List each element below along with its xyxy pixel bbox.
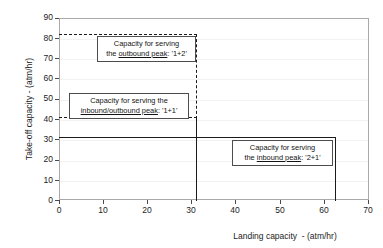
gridline-60 — [60, 79, 368, 80]
annotation-inbound-peak-line2: the inbound peak: '2+1' — [236, 153, 329, 163]
x-tick-mark-70 — [368, 200, 369, 204]
x-tick-mark-10 — [103, 200, 104, 204]
y-tick-label-0: 0 — [27, 196, 53, 205]
gridline-40 — [60, 120, 368, 121]
x-tick-mark-20 — [147, 200, 148, 204]
curve-landing-31-boundary-vertical — [196, 117, 197, 201]
y-tick-label-50: 50 — [27, 94, 53, 103]
x-tick-label-20: 20 — [132, 205, 162, 215]
x-tick-mark-50 — [280, 200, 281, 204]
curve-inbound-peak-vertical — [335, 137, 336, 201]
y-tick-label-70: 70 — [27, 54, 53, 63]
curve-outbound-peak-vertical — [196, 34, 197, 119]
y-tick-label-80: 80 — [27, 34, 53, 43]
x-tick-label-0: 0 — [44, 205, 74, 215]
x-tick-label-70: 70 — [353, 205, 383, 215]
annotation-outbound-peak-line1: Capacity for serving — [101, 39, 192, 49]
x-tick-label-30: 30 — [176, 205, 206, 215]
x-tick-mark-30 — [191, 200, 192, 204]
y-tick-label-40: 40 — [27, 115, 53, 124]
annotation-inbound-peak-line1: Capacity for serving — [236, 143, 329, 153]
y-tick-label-10: 10 — [27, 176, 53, 185]
x-tick-mark-40 — [235, 200, 236, 204]
x-tick-label-40: 40 — [220, 205, 250, 215]
x-axis-title: Landing capacity - (atm/hr) — [190, 231, 380, 241]
x-axis-tick-labels: 0 10 20 30 40 50 60 70 — [0, 205, 383, 219]
y-tick-label-20: 20 — [27, 155, 53, 164]
gridline-10 — [60, 181, 368, 182]
x-tick-mark-0 — [59, 200, 60, 204]
annotation-outbound-peak-line2-underlined: outbound peak — [118, 49, 167, 58]
annotation-inbound-outbound-peak-line2-suffix: : '1+1' — [158, 106, 177, 115]
annotation-inbound-peak-line2-suffix: : '2+1' — [301, 153, 320, 162]
annotation-inbound-peak-line2-underlined: inbound peak — [257, 153, 301, 162]
annotation-outbound-peak-line2-prefix: the — [106, 49, 118, 58]
annotation-inbound-outbound-peak: Capacity for serving the inbound/outboun… — [69, 93, 189, 119]
annotation-outbound-peak: Capacity for serving the outbound peak: … — [97, 36, 196, 62]
annotation-inbound-outbound-peak-line2: inbound/outbound peak: '1+1' — [73, 106, 185, 116]
curve-inbound-peak-horizontal — [59, 137, 336, 138]
x-tick-label-60: 60 — [309, 205, 339, 215]
annotation-inbound-peak-line2-prefix: the — [244, 153, 256, 162]
capacity-envelope-chart: Take-off capacity - (atm/hr) 0 10 20 30 … — [0, 0, 383, 248]
annotation-inbound-outbound-peak-line2-underlined: inbound/outbound peak — [81, 106, 158, 115]
curve-outbound-peak-horizontal — [59, 34, 197, 35]
x-tick-mark-60 — [324, 200, 325, 204]
annotation-inbound-peak: Capacity for serving the inbound peak: '… — [232, 140, 333, 166]
y-tick-label-60: 60 — [27, 74, 53, 83]
x-tick-label-10: 10 — [88, 205, 118, 215]
x-tick-label-50: 50 — [265, 205, 295, 215]
annotation-outbound-peak-line2: the outbound peak: '1+2' — [101, 49, 192, 59]
annotation-outbound-peak-line2-suffix: : '1+2' — [167, 49, 186, 58]
y-tick-label-30: 30 — [27, 135, 53, 144]
annotation-inbound-outbound-peak-line1: Capacity for serving the — [73, 96, 185, 106]
y-tick-label-90: 90 — [27, 13, 53, 22]
